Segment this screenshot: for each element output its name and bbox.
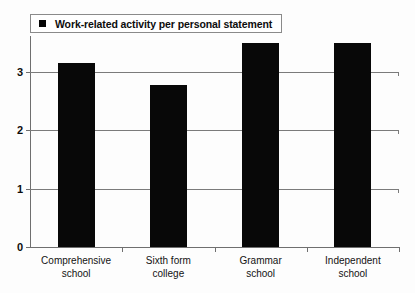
y-tick-mark	[26, 247, 31, 248]
legend-label: Work-related activity per personal state…	[55, 18, 272, 30]
x-tick	[122, 247, 123, 252]
bar	[58, 63, 95, 247]
gridline-end-tick	[398, 189, 399, 193]
bar	[334, 43, 371, 247]
category-label: Comprehensive school	[30, 255, 122, 280]
x-tick	[215, 247, 216, 252]
legend-swatch-icon	[39, 20, 46, 27]
y-axis-line	[30, 36, 31, 247]
y-tick-label: 3	[17, 67, 23, 78]
y-tick-label: 2	[17, 125, 23, 136]
x-tick	[307, 247, 308, 252]
bar	[150, 85, 187, 247]
y-tick-label: 0	[17, 242, 23, 253]
y-tick-label: 1	[17, 183, 23, 194]
category-label: Grammar school	[215, 255, 307, 280]
category-label: Independent school	[307, 255, 399, 280]
bar-chart: Work-related activity per personal state…	[0, 0, 415, 293]
category-label: Sixth form college	[122, 255, 214, 280]
chart-legend: Work-related activity per personal state…	[30, 14, 282, 33]
gridline-end-tick	[398, 130, 399, 134]
bar	[242, 43, 279, 247]
x-tick	[399, 247, 400, 252]
plot-area: 0123 Comprehensive schoolSixth form coll…	[30, 36, 399, 247]
gridline-end-tick	[398, 72, 399, 76]
